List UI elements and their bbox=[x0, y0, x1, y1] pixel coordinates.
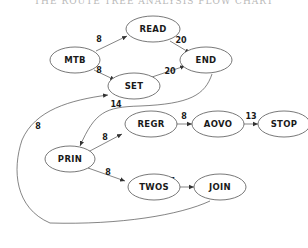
node-mtb: MTB bbox=[50, 47, 100, 73]
edge-label-mtb-set: 8 bbox=[96, 66, 102, 75]
svg-text:READ: READ bbox=[139, 24, 166, 34]
svg-text:AOVO: AOVO bbox=[204, 119, 232, 129]
svg-text:JOIN: JOIN bbox=[208, 182, 231, 192]
node-regr: REGR bbox=[125, 111, 177, 137]
edge-label-mtb-read: 8 bbox=[96, 35, 102, 44]
svg-text:PRIN: PRIN bbox=[58, 154, 82, 164]
node-aovo: AOVO bbox=[192, 111, 244, 137]
edge-label-join-loop: 8 bbox=[35, 122, 41, 131]
edge-label-join-set: 14 bbox=[110, 100, 122, 109]
svg-text:END: END bbox=[196, 55, 217, 65]
node-prin: PRIN bbox=[45, 146, 95, 172]
svg-text:REGR: REGR bbox=[137, 119, 164, 129]
node-stop: STOP bbox=[258, 111, 308, 137]
edge-label-prin-regr: 8 bbox=[102, 133, 108, 142]
node-read: READ bbox=[126, 16, 180, 42]
svg-text:TWOS: TWOS bbox=[139, 182, 169, 192]
svg-text:MTB: MTB bbox=[64, 55, 86, 65]
node-join: JOIN bbox=[194, 174, 246, 200]
node-twos: TWOS bbox=[128, 174, 180, 200]
flow-diagram: 8 20 8 20 14 8 8 8 13 8 7 READ MTB END S… bbox=[0, 0, 308, 248]
svg-text:SET: SET bbox=[125, 81, 144, 91]
edge-label-prin-twos: 8 bbox=[105, 168, 111, 177]
edge-label-regr-aovo: 8 bbox=[181, 112, 187, 121]
edge-label-read-end: 20 bbox=[175, 36, 187, 45]
node-end: END bbox=[180, 47, 232, 73]
edge-label-aovo-stop: 13 bbox=[245, 112, 256, 121]
edge-label-set-end: 20 bbox=[164, 67, 176, 76]
node-set: SET bbox=[108, 73, 160, 99]
svg-text:STOP: STOP bbox=[271, 119, 298, 129]
